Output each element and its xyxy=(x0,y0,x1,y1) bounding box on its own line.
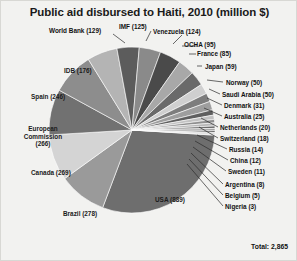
slice-label-norway: Norway (50) xyxy=(226,79,262,87)
slice-label-venezuela: Venezuela (124) xyxy=(153,28,201,36)
slice-label-european-commission-line3: (266) xyxy=(11,140,75,148)
slice-label-belgium: Belgium (5) xyxy=(225,192,260,200)
slice-label-usa: USA (889) xyxy=(155,196,185,204)
slice-label-netherlands: Netherlands (20) xyxy=(220,124,270,132)
slice-label-russia: Russia (14) xyxy=(229,146,263,154)
slice-label-european-commission: European Commission (266) xyxy=(11,125,75,148)
slice-label-european-commission-line2: Commission xyxy=(11,133,75,141)
slice-label-switzerland: Switzerland (18) xyxy=(220,135,269,143)
slice-label-nigeria: Nigeria (3) xyxy=(225,203,256,211)
slice-label-france: France (85) xyxy=(197,50,231,58)
slice-label-brazil: Brazil (278) xyxy=(63,210,97,218)
slice-label-denmark: Denmark (31) xyxy=(224,102,265,110)
slice-label-world-bank: World Bank (129) xyxy=(49,27,101,35)
slice-label-imf: IMF (125) xyxy=(119,23,147,31)
slice-label-spain: Spain (246) xyxy=(31,93,65,101)
slice-label-japan: Japan (59) xyxy=(205,63,237,71)
chart-page: Public aid disbursed to Haiti, 2010 (mil… xyxy=(0,0,297,261)
slice-label-australia: Australia (25) xyxy=(224,113,265,121)
slice-label-china: China (12) xyxy=(230,157,261,165)
slice-label-saudi-arabia: Saudi Arabia (50) xyxy=(222,91,274,99)
slice-label-idb: IDB (176) xyxy=(64,67,92,75)
slice-label-canada: Canada (269) xyxy=(31,169,71,177)
slice-label-sweden: Sweden (11) xyxy=(228,168,265,176)
slice-label-ocha: OCHA (95) xyxy=(184,41,216,49)
slice-label-argentina: Argentina (8) xyxy=(225,181,264,189)
slice-label-european-commission-line1: European xyxy=(11,125,75,133)
chart-title: Public aid disbursed to Haiti, 2010 (mil… xyxy=(1,6,297,18)
total-label: Total: 2,865 xyxy=(251,243,288,250)
